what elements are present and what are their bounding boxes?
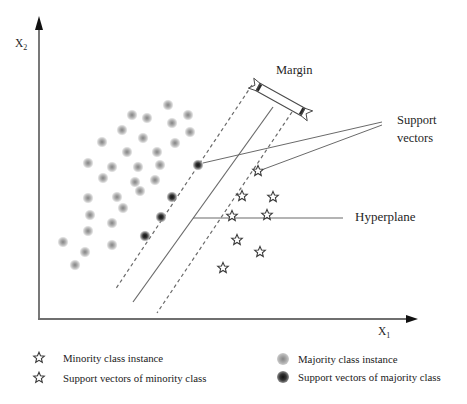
support-vectors-label-line1: Support [397, 111, 437, 129]
svm-margin-figure: X2 X1 Margin Support vectors Hyperplane … [0, 0, 467, 404]
majority-dot [82, 225, 93, 236]
y-axis-label-sub: 2 [23, 43, 27, 52]
majority-sv-dot-icon [277, 371, 289, 383]
legend-item-minority-support-vector: Support vectors of minority class [32, 370, 206, 385]
majority-dot [82, 157, 93, 168]
minority-star [268, 191, 279, 201]
x-axis-label: X1 [378, 325, 390, 340]
majority-dot [69, 259, 80, 270]
majority-support-vector-dot [155, 211, 166, 222]
minority-star [227, 210, 238, 220]
majority-dot [106, 217, 117, 228]
majority-dot [184, 126, 195, 137]
support-vectors-label-line2: vectors [397, 129, 437, 147]
majority-dot [97, 172, 108, 183]
majority-dot [121, 146, 132, 157]
diagram-svg [0, 0, 467, 404]
margin-ribbon-band [256, 83, 305, 115]
minority-sv-star-icon [32, 370, 47, 385]
majority-dot [106, 161, 117, 172]
minority-star [232, 234, 243, 244]
majority-dot [141, 112, 152, 123]
majority-dot-icon [277, 353, 289, 365]
majority-dot [57, 236, 68, 247]
majority-dot [117, 202, 128, 213]
minority-star [237, 190, 248, 200]
majority-dot [126, 109, 137, 120]
legend-label: Support vectors of majority class [298, 371, 441, 383]
majority-dot [79, 246, 90, 257]
margin-label: Margin [276, 63, 313, 78]
x-axis-arrowhead [406, 315, 418, 323]
minority-star [218, 262, 229, 272]
majority-dot [149, 174, 160, 185]
legend-label: Majority class instance [298, 353, 398, 365]
x-axis-label-sub: 1 [386, 331, 390, 340]
minority-star-icon [32, 350, 47, 365]
majority-dot [132, 161, 143, 172]
majority-dot [134, 185, 145, 196]
minority-star [255, 246, 266, 256]
majority-dot [84, 209, 95, 220]
majority-dot [166, 117, 177, 128]
hyperplane-label: Hyperplane [355, 209, 416, 225]
legend-label: Support vectors of minority class [63, 372, 206, 384]
majority-dot [154, 159, 165, 170]
majority-dot [111, 191, 122, 202]
hyperplane-line [133, 107, 273, 302]
majority-support-vector-dot [166, 191, 177, 202]
majority-dot [96, 136, 107, 147]
majority-dot [182, 109, 193, 120]
majority-dot [151, 146, 162, 157]
majority-dot [137, 132, 148, 143]
legend-item-minority-instance: Minority class instance [32, 350, 163, 365]
legend-label: Minority class instance [63, 352, 163, 364]
majority-support-vector-dot [139, 230, 150, 241]
majority-dot [82, 192, 93, 203]
majority-dot [169, 137, 180, 148]
y-axis-arrowhead [35, 16, 43, 30]
support-vectors-pointer-line-2 [264, 125, 382, 169]
majority-dot [106, 239, 117, 250]
support-vectors-pointer-line-1 [203, 122, 382, 163]
legend-item-majority-support-vector: Support vectors of majority class [277, 371, 441, 383]
legend-item-majority-instance: Majority class instance [277, 353, 398, 365]
minority-support-vector-star [253, 165, 264, 175]
majority-dot [162, 99, 173, 110]
majority-support-vector-dot [192, 159, 203, 170]
majority-dot [116, 124, 127, 135]
y-axis-label: X2 [15, 37, 27, 52]
support-vectors-label: Support vectors [397, 111, 437, 147]
